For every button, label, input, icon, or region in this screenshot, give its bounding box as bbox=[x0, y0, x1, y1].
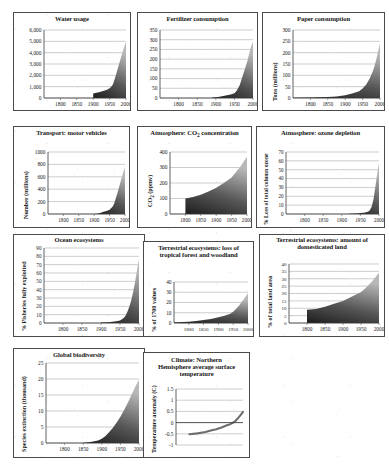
svg-text:1950: 1950 bbox=[104, 101, 115, 107]
svg-text:30: 30 bbox=[166, 289, 172, 295]
svg-text:1950: 1950 bbox=[229, 101, 240, 107]
svg-text:2000: 2000 bbox=[374, 326, 385, 332]
chart-svg: 0501001502002503003501800185019001950200… bbox=[138, 13, 258, 111]
svg-text:1950: 1950 bbox=[356, 326, 367, 332]
svg-text:1800: 1800 bbox=[173, 101, 184, 107]
svg-text:1950: 1950 bbox=[355, 217, 366, 223]
svg-text:0: 0 bbox=[288, 95, 291, 101]
svg-text:200: 200 bbox=[149, 56, 157, 62]
svg-text:10: 10 bbox=[38, 408, 44, 414]
svg-text:1000: 1000 bbox=[35, 149, 46, 155]
svg-text:2000: 2000 bbox=[121, 101, 131, 107]
svg-text:90: 90 bbox=[36, 245, 42, 251]
svg-text:2000: 2000 bbox=[243, 327, 254, 332]
svg-text:50: 50 bbox=[152, 85, 158, 91]
svg-text:0: 0 bbox=[39, 320, 42, 326]
svg-text:1800: 1800 bbox=[299, 217, 310, 223]
svg-text:300: 300 bbox=[149, 37, 157, 43]
svg-text:1800: 1800 bbox=[180, 217, 191, 223]
chart-panel-ocean-ecosystems[interactable]: Ocean ecosystems % Fisheries fully explo… bbox=[13, 234, 145, 337]
svg-text:50: 50 bbox=[285, 84, 291, 90]
svg-text:1850: 1850 bbox=[78, 446, 89, 452]
svg-text:40: 40 bbox=[278, 175, 284, 181]
chart-panel-atmosphere-co2[interactable]: Atmosphere: CO2 concentration CO2 (ppmv)… bbox=[137, 126, 252, 228]
svg-text:0: 0 bbox=[284, 321, 287, 326]
chart-svg: 05010015020025030018001850190019502000 bbox=[263, 13, 385, 111]
svg-text:10: 10 bbox=[36, 312, 42, 318]
svg-text:25: 25 bbox=[282, 284, 288, 289]
chart-panel-paper-consumption[interactable]: Paper consumption Tons (millions) 050100… bbox=[262, 12, 385, 111]
svg-text:1900: 1900 bbox=[88, 101, 99, 107]
svg-text:1850: 1850 bbox=[196, 217, 207, 223]
plot-area: 01020304050607018001850190019502000 bbox=[257, 127, 385, 228]
svg-text:70: 70 bbox=[36, 262, 42, 268]
svg-text:2000: 2000 bbox=[374, 217, 385, 223]
svg-text:20: 20 bbox=[278, 193, 284, 199]
plot-area: 0501001502002503003501800185019001950200… bbox=[138, 13, 258, 111]
chart-panel-domesticated-land[interactable]: Terrestrial ecosystems: amount of domest… bbox=[259, 234, 385, 337]
plot-area: -1-0.500.511.5 bbox=[144, 353, 250, 458]
svg-text:2000: 2000 bbox=[248, 101, 258, 107]
svg-text:10: 10 bbox=[282, 306, 288, 311]
svg-text:2,000: 2,000 bbox=[29, 72, 41, 78]
chart-svg: -1-0.500.511.5 bbox=[144, 353, 250, 458]
svg-text:20: 20 bbox=[38, 376, 44, 382]
chart-panel-fertilizer-consumption[interactable]: Fertilizer consumption 05010015020025030… bbox=[137, 12, 258, 111]
svg-text:100: 100 bbox=[282, 72, 290, 78]
svg-text:10: 10 bbox=[166, 310, 172, 316]
svg-text:0: 0 bbox=[171, 420, 174, 426]
svg-text:1: 1 bbox=[171, 397, 174, 403]
svg-text:40: 40 bbox=[36, 287, 42, 293]
svg-text:1950: 1950 bbox=[226, 217, 237, 223]
chart-panel-climate-nh-temperature[interactable]: Climate: Northern Hemisphere average sur… bbox=[143, 352, 250, 458]
svg-text:0: 0 bbox=[281, 211, 284, 217]
svg-text:2000: 2000 bbox=[242, 217, 252, 223]
svg-text:1900: 1900 bbox=[210, 101, 221, 107]
svg-text:1,000: 1,000 bbox=[29, 84, 41, 90]
plot-area: 05010015020025030018001850190019502000 bbox=[263, 13, 385, 111]
svg-text:3,000: 3,000 bbox=[29, 61, 41, 67]
chart-svg: 051015202518001850190019502000 bbox=[14, 349, 145, 458]
svg-text:1900: 1900 bbox=[97, 446, 108, 452]
chart-panel-water-usage[interactable]: Water usage 01,0002,0003,0004,0005,0006,… bbox=[13, 12, 131, 111]
svg-text:1800: 1800 bbox=[305, 101, 316, 107]
svg-text:1800: 1800 bbox=[184, 327, 195, 332]
svg-text:800: 800 bbox=[37, 161, 45, 167]
svg-text:1900: 1900 bbox=[213, 327, 224, 332]
svg-text:1800: 1800 bbox=[55, 101, 66, 107]
chart-panel-ozone-depletion[interactable]: Atmosphere: ozone depletion % Loss of to… bbox=[256, 126, 385, 228]
svg-text:1950: 1950 bbox=[357, 101, 368, 107]
chart-panel-global-biodiversity[interactable]: Global biodiversity Species extinction (… bbox=[13, 348, 145, 458]
svg-text:50: 50 bbox=[278, 167, 284, 173]
chart-svg: 01,0002,0003,0004,0005,0006,000180018501… bbox=[14, 13, 131, 111]
svg-text:1850: 1850 bbox=[71, 101, 82, 107]
svg-text:1850: 1850 bbox=[322, 101, 333, 107]
svg-text:6,000: 6,000 bbox=[29, 27, 41, 33]
svg-text:150: 150 bbox=[149, 66, 157, 72]
svg-text:350: 350 bbox=[149, 27, 157, 33]
chart-svg: 010203040506070809018001850190019502000 bbox=[14, 235, 145, 337]
svg-text:15: 15 bbox=[282, 299, 288, 304]
svg-text:40: 40 bbox=[282, 262, 288, 267]
svg-text:1800: 1800 bbox=[58, 217, 69, 223]
svg-text:5,000: 5,000 bbox=[29, 38, 41, 44]
svg-text:100: 100 bbox=[149, 75, 157, 81]
svg-text:0: 0 bbox=[41, 440, 44, 446]
chart-panel-transport-motor-vehicles[interactable]: Transport: motor vehicles Number (millio… bbox=[13, 126, 130, 228]
svg-text:60: 60 bbox=[36, 270, 42, 276]
svg-text:1950: 1950 bbox=[228, 327, 239, 332]
svg-text:400: 400 bbox=[159, 149, 167, 155]
svg-text:1800: 1800 bbox=[58, 326, 69, 332]
svg-text:1900: 1900 bbox=[89, 217, 100, 223]
plot-area: 010203040506070809018001850190019502000 bbox=[14, 235, 145, 337]
chart-svg: 051015202530354018001850190019502000 bbox=[260, 235, 385, 337]
svg-text:20: 20 bbox=[282, 291, 288, 296]
svg-text:100: 100 bbox=[159, 195, 167, 201]
svg-text:1850: 1850 bbox=[192, 101, 203, 107]
svg-text:300: 300 bbox=[282, 27, 290, 33]
svg-text:1850: 1850 bbox=[320, 326, 331, 332]
svg-text:0: 0 bbox=[155, 95, 158, 101]
svg-text:1900: 1900 bbox=[211, 217, 222, 223]
svg-text:80: 80 bbox=[36, 253, 42, 259]
chart-panel-tropical-forest-loss[interactable]: Terrestrial ecosystems: loss of tropical… bbox=[143, 241, 254, 337]
